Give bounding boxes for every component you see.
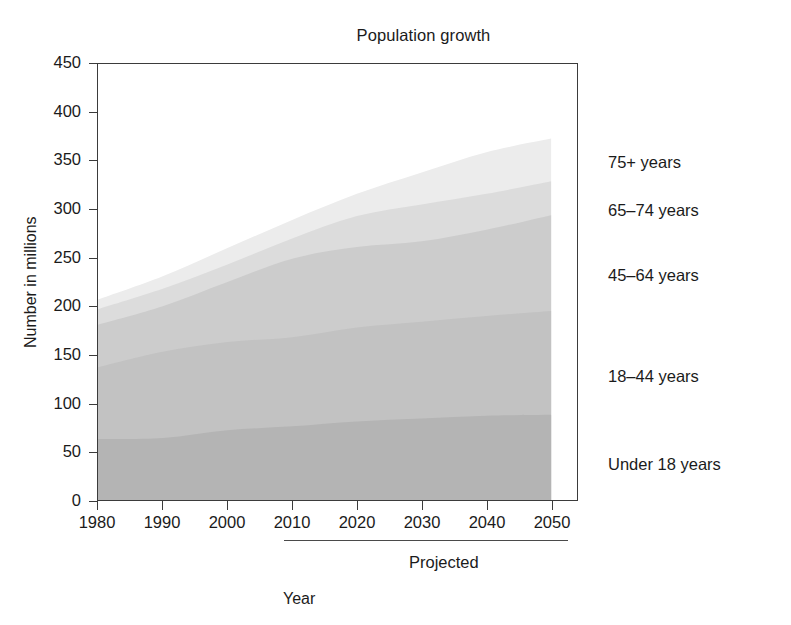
y-axis-tick-label: 0 — [21, 492, 81, 508]
y-axis-tick-label: 150 — [21, 346, 81, 362]
x-axis-tick — [292, 501, 293, 510]
x-axis-tick — [552, 501, 553, 510]
x-axis-tick-label: 1990 — [127, 513, 197, 532]
x-axis-tick-label: 2010 — [257, 513, 327, 532]
x-axis-tick-label: 1980 — [62, 513, 132, 532]
y-axis-tick-label: 450 — [21, 54, 81, 70]
series-label: 18–44 years — [608, 367, 699, 386]
y-axis-tick — [89, 112, 97, 113]
x-axis-tick — [227, 501, 228, 510]
series-label: 45–64 years — [608, 266, 699, 285]
y-axis-tick-label: 100 — [21, 395, 81, 411]
projected-bracket-line — [284, 540, 568, 541]
x-axis-tick-label: 2030 — [387, 513, 457, 532]
x-axis-tick-label: 2050 — [517, 513, 587, 532]
series-label: Under 18 years — [608, 455, 721, 474]
series-label: 75+ years — [608, 153, 681, 172]
y-axis-tick — [89, 160, 97, 161]
y-axis-tick-label: 300 — [21, 200, 81, 216]
chart-title: Population growth — [0, 26, 791, 45]
x-axis-tick-label: 2040 — [452, 513, 522, 532]
x-axis-tick — [97, 501, 98, 510]
y-axis-tick — [89, 452, 97, 453]
y-axis-tick — [89, 355, 97, 356]
y-axis-tick — [89, 306, 97, 307]
y-axis-tick — [89, 63, 97, 64]
x-axis-title: Year — [283, 590, 315, 608]
x-axis-tick — [487, 501, 488, 510]
x-axis-tick — [162, 501, 163, 510]
y-axis-tick — [89, 501, 97, 502]
x-axis-tick-label: 2000 — [192, 513, 262, 532]
x-axis-tick-label: 2020 — [322, 513, 392, 532]
axis-overlay: 050100150200250300350400450 198019902000… — [97, 63, 578, 501]
y-axis-tick — [89, 404, 97, 405]
chart-figure: Population growth 0501001502002503003504… — [0, 0, 791, 625]
x-axis-tick — [357, 501, 358, 510]
y-axis-tick-label: 50 — [21, 443, 81, 459]
y-axis-tick-label: 350 — [21, 151, 81, 167]
y-axis-tick-label: 400 — [21, 103, 81, 119]
y-axis-title: Number in millions — [22, 216, 40, 348]
y-axis-tick — [89, 209, 97, 210]
y-axis-tick — [89, 258, 97, 259]
projected-label: Projected — [409, 553, 479, 572]
series-label: 65–74 years — [608, 201, 699, 220]
x-axis-tick — [422, 501, 423, 510]
